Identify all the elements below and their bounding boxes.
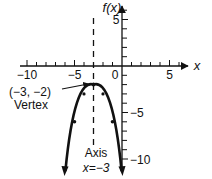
x-axis-ticks [27,60,179,66]
x-tick-label-neg10: −10 [17,68,38,82]
parabola-graph: −10 −5 0 5 5 −5 −10 x f(x) (−3, −2) Vert… [0,0,212,179]
y-tick-label-neg10: −10 [130,153,151,167]
axis-equation-label: x=−3 [82,161,110,175]
y-tick-label-5: 5 [113,13,120,27]
y-axis-ticks [122,10,128,159]
x-axis-label: x [193,58,201,73]
vertex-label: Vertex [14,98,48,112]
axis-label: Axis [85,146,108,160]
parabola-right-arrow-icon [119,166,126,176]
x-tick-label-5: 5 [166,68,173,82]
y-tick-label-neg5: −5 [130,106,144,120]
parabola-left-arrow-icon [62,166,69,176]
x-tick-label-0: 0 [112,68,119,82]
vertex-coordinates-label: (−3, −2) [9,85,51,99]
x-tick-label-neg5: −5 [68,68,82,82]
y-axis-label: f(x) [103,0,122,15]
